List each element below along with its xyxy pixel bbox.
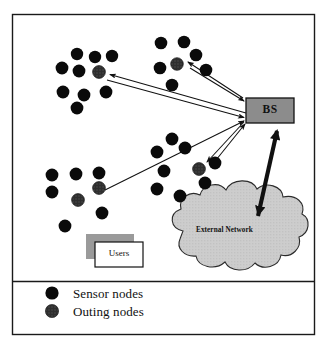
users-label: Users	[95, 248, 143, 258]
sensor-node	[89, 51, 101, 63]
sensor-node	[70, 168, 83, 181]
sensor-node	[166, 133, 179, 146]
sensor-node	[56, 62, 69, 75]
outing-node	[93, 66, 106, 79]
diagram-canvas	[0, 0, 328, 350]
sensor-node	[199, 177, 212, 190]
sensor-node	[100, 86, 113, 99]
sensor-node	[71, 48, 83, 60]
sensor-node	[190, 49, 203, 62]
outing-node	[193, 163, 206, 176]
external-network-label: External Network	[196, 226, 253, 234]
sensor-node	[178, 36, 191, 49]
sensor-node	[209, 157, 222, 170]
legend-label-outing-nodes: Outing nodes	[73, 304, 144, 320]
sensor-node	[154, 62, 167, 75]
sensor-node	[46, 186, 59, 199]
sensor-node	[73, 65, 86, 78]
legend-marker-sensor	[45, 286, 58, 299]
network-diagram-figure: BS External Network Users Sensor nodes O…	[0, 0, 328, 350]
sensor-node	[93, 167, 106, 180]
sensor-node	[106, 50, 118, 62]
sensor-node	[151, 146, 164, 159]
sensor-node	[151, 183, 164, 196]
legend-marker-outing	[45, 304, 58, 317]
sensor-node	[158, 165, 171, 178]
sensor-node	[200, 64, 213, 77]
sensor-node	[78, 89, 91, 102]
sensor-node	[57, 86, 70, 99]
sensor-node	[179, 142, 192, 155]
outing-node	[171, 58, 184, 71]
base-station-label: BS	[246, 103, 294, 115]
outing-node	[93, 182, 106, 195]
sensor-node	[46, 169, 59, 182]
sensor-node	[166, 79, 179, 92]
sensor-node	[155, 37, 168, 50]
sensor-node	[71, 102, 84, 115]
sensor-node	[59, 220, 72, 233]
legend-label-sensor-nodes: Sensor nodes	[73, 286, 143, 302]
outing-node	[72, 194, 85, 207]
sensor-node	[174, 190, 187, 203]
sensor-node	[96, 207, 109, 220]
